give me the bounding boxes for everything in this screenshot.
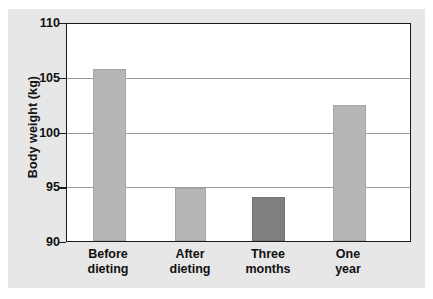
y-tick-105 [59,78,66,79]
x-label-line-1: Three [228,247,308,262]
x-label-line-1: One [308,247,388,262]
chart-figure: Body weight (kg) 110 105 100 95 90 Befor… [0,0,433,299]
y-tick-95 [59,187,66,188]
y-axis-label-90: 90 [26,236,60,249]
x-label-line-2: dieting [68,262,148,277]
x-label-after-dieting: After dieting [150,247,230,277]
y-axis-label-105: 105 [26,72,60,85]
bar-after-dieting[interactable] [175,188,206,241]
y-axis-label-100: 100 [26,127,60,140]
x-label-line-2: dieting [150,262,230,277]
x-label-one-year: One year [308,247,388,277]
bar-three-months[interactable] [252,197,285,241]
x-label-line-2: months [228,262,308,277]
x-label-line-1: Before [68,247,148,262]
y-tick-110 [59,23,66,24]
bar-one-year[interactable] [333,105,366,241]
y-tick-90 [59,242,66,243]
x-label-before-dieting: Before dieting [68,247,148,277]
y-axis-label-95: 95 [26,181,60,194]
x-label-line-2: year [308,262,388,277]
x-label-three-months: Three months [228,247,308,277]
bar-before-dieting[interactable] [93,69,126,242]
x-label-line-1: After [150,247,230,262]
y-axis-labels: 110 105 100 95 90 [18,0,60,299]
y-axis-label-110: 110 [26,17,60,30]
y-tick-100 [59,133,66,134]
plot-area [66,23,411,242]
